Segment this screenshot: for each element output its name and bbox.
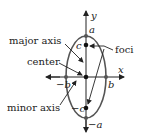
a-top-label: a [89,24,95,35]
b-right-label: b [108,79,114,90]
c-top-label: c [76,40,82,51]
foci-label: foci [115,44,134,55]
center-leader [59,63,82,75]
a-bottom-label: −a [88,119,102,130]
c-bottom-label: −c [71,103,85,114]
major-axis-label: major axis [9,35,61,46]
b-left-label: −b [56,79,71,90]
y-axis-label: y [90,10,97,21]
minor-axis-label: minor axis [7,102,60,113]
center-label: center [27,56,60,67]
focus-top [84,43,89,48]
ellipse-diagram: y x a −a c −c b −b major axis center min… [0,0,144,140]
x-axis-label: x [118,64,124,75]
center-point [84,75,89,80]
vertex-top [84,34,88,38]
